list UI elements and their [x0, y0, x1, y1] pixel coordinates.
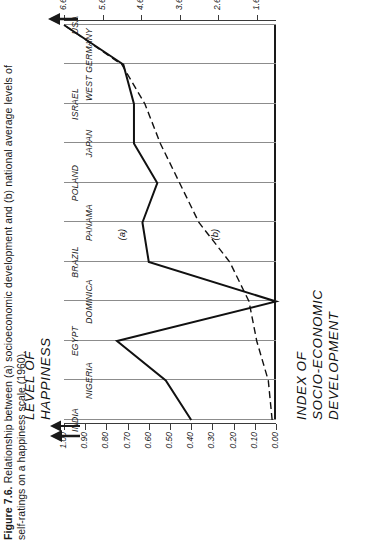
left-tick	[212, 424, 213, 430]
left-axis-title-line1: INDEX OF	[294, 289, 310, 420]
caption-text-1: Relationship between (a) socioeconomic d…	[2, 65, 14, 483]
left-tick	[106, 424, 107, 430]
series-lines	[64, 20, 278, 420]
left-tick	[234, 424, 235, 430]
left-tick-label: 0.10	[249, 432, 259, 466]
left-tick	[191, 424, 192, 430]
right-tick-label: 3.6	[174, 0, 184, 10]
plot-area: INDIANIGERIAEGYPTDOMINICABRAZILPANAMAPOL…	[64, 25, 276, 420]
right-tick-label: 1.6	[251, 0, 261, 10]
series-b-polyline	[64, 25, 272, 420]
right-axis-title-line2: HAPPINESS	[38, 337, 54, 420]
figure-number: Figure 7.6.	[2, 486, 14, 540]
left-tick	[170, 424, 171, 430]
left-tick-label: 0.00	[270, 432, 280, 466]
left-tick	[276, 424, 277, 430]
right-tick-label: 4.6	[135, 0, 145, 10]
left-tick	[149, 424, 150, 430]
figure-chart: LEVEL OF HAPPINESS INDEX OF SOCIO-ECONOM…	[24, 8, 364, 478]
right-tick-label: 5.6	[97, 0, 107, 10]
right-axis-title-line1: LEVEL OF	[22, 337, 38, 420]
right-axis-title: LEVEL OF HAPPINESS	[22, 337, 54, 420]
left-axis-title-line3: DEVELOPMENT	[326, 289, 342, 420]
left-tick-label: 0.90	[79, 432, 89, 466]
left-tick-label: 0.80	[100, 432, 110, 466]
left-tick	[128, 424, 129, 430]
left-tick-label: 0.30	[206, 432, 216, 466]
left-tick-label: 0.70	[122, 432, 132, 466]
left-axis-arrow-icon-2	[50, 428, 80, 444]
left-tick-label: 0.60	[143, 432, 153, 466]
left-axis-title: INDEX OF SOCIO-ECONOMIC DEVELOPMENT	[294, 289, 342, 420]
left-tick-label: 0.50	[164, 432, 174, 466]
left-tick	[255, 424, 256, 430]
left-tick-label: 0.20	[228, 432, 238, 466]
caption-line-1: Figure 7.6. Relationship between (a) soc…	[2, 4, 15, 540]
left-tick	[85, 424, 86, 430]
series-b-label: (b)	[209, 229, 220, 241]
right-tick-label: 2.6	[212, 0, 222, 10]
left-tick-label: 0.40	[185, 432, 195, 466]
left-axis-title-line2: SOCIO-ECONOMIC	[310, 289, 326, 420]
right-tick-label: 6.6	[58, 0, 68, 10]
series-a-label: (a)	[116, 229, 127, 241]
series-a-polyline	[64, 25, 276, 420]
